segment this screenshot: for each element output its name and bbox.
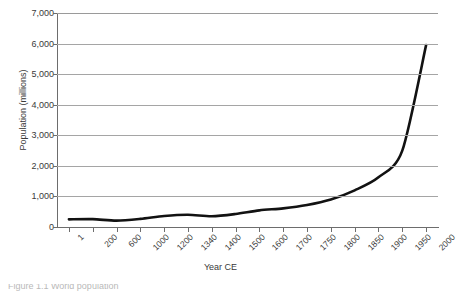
x-axis-tick-mark — [402, 228, 403, 232]
x-axis-tick-mark — [307, 228, 308, 232]
gridline — [57, 105, 438, 106]
x-axis-tick-mark — [378, 228, 379, 232]
figure-caption-clipped: Figure 1.1 World population — [8, 284, 208, 292]
y-axis-tick-mark — [53, 74, 57, 75]
x-axis-title: Year CE — [0, 262, 441, 272]
x-axis-tick-mark — [164, 228, 165, 232]
x-axis-tick-label: 1200 — [175, 232, 195, 252]
y-axis-tick-label: 2,000 — [16, 161, 54, 171]
gridline — [57, 196, 438, 197]
x-axis-tick-mark — [93, 228, 94, 232]
x-axis-tick-labels: 1200600100012001340140015001600170017501… — [57, 232, 439, 264]
x-axis-tick-mark — [426, 228, 427, 232]
x-axis-tick-label: 1340 — [199, 232, 219, 252]
x-axis-tick-label: 1600 — [270, 232, 290, 252]
x-axis-tick-mark — [355, 228, 356, 232]
y-axis-tick-mark — [53, 13, 57, 14]
y-axis-tick-label: 5,000 — [16, 69, 54, 79]
gridline — [57, 135, 438, 136]
y-axis-tick-mark — [53, 227, 57, 228]
x-axis-tick-label: 1400 — [222, 232, 242, 252]
x-axis-tick-label: 2000 — [437, 232, 457, 252]
x-axis-tick-mark — [212, 228, 213, 232]
gridline — [57, 74, 438, 75]
gridline — [57, 166, 438, 167]
x-axis-tick-label: 1700 — [294, 232, 314, 252]
y-axis-tick-label: 7,000 — [16, 8, 54, 18]
plot-area — [57, 13, 438, 227]
x-axis-tick-label: 1850 — [365, 232, 385, 252]
x-axis-tick-mark — [188, 228, 189, 232]
x-axis-tick-label: 1950 — [413, 232, 433, 252]
y-axis-tick-label: 6,000 — [16, 39, 54, 49]
population-line-series — [57, 13, 438, 227]
y-axis-tick-mark — [53, 105, 57, 106]
x-axis-tick-label: 1900 — [389, 232, 409, 252]
x-axis-tick-mark — [236, 228, 237, 232]
x-axis-tick-label: 1800 — [341, 232, 361, 252]
x-axis-tick-label: 600 — [126, 232, 143, 249]
x-axis-tick-mark — [117, 228, 118, 232]
y-axis-tick-mark — [53, 135, 57, 136]
y-axis-tick-mark — [53, 196, 57, 197]
x-axis-tick-mark — [259, 228, 260, 232]
x-axis-tick-label: 1000 — [151, 232, 171, 252]
x-axis-tick-mark — [331, 228, 332, 232]
y-axis-tick-label: 1,000 — [16, 191, 54, 201]
y-axis-tick-labels: 01,0002,0003,0004,0005,0006,0007,000 — [16, 8, 54, 232]
population-line-path — [69, 45, 426, 221]
y-axis-tick-label: 0 — [16, 222, 54, 232]
figure-caption-text: Figure 1.1 World population — [8, 284, 208, 291]
gridline — [57, 44, 438, 45]
x-axis-tick-mark — [140, 228, 141, 232]
x-axis-line — [57, 227, 439, 228]
x-axis-tick-label: 1 — [75, 232, 85, 242]
y-axis-tick-mark — [53, 166, 57, 167]
x-axis-tick-mark — [69, 228, 70, 232]
x-axis-tick-label: 1500 — [246, 232, 266, 252]
gridline — [57, 13, 438, 14]
x-axis-tick-label: 1750 — [318, 232, 338, 252]
x-axis-tick-label: 200 — [102, 232, 119, 249]
x-axis-tick-mark — [283, 228, 284, 232]
y-axis-tick-label: 4,000 — [16, 100, 54, 110]
y-axis-tick-mark — [53, 44, 57, 45]
y-axis-tick-label: 3,000 — [16, 130, 54, 140]
